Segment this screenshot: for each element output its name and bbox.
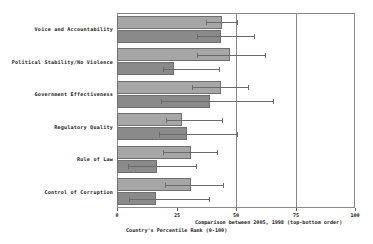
error-bar-5-2005 [165,185,223,186]
x-tick-label-50: 50 [233,212,239,218]
category-label-3: Regulatory Quality [54,124,113,130]
error-bar-1-2005 [197,55,265,56]
error-cap-3-1998-low [159,132,160,137]
category-label-5: Control of Corruption [44,189,113,195]
gridline-50 [236,13,237,208]
error-cap-1-1998-high [219,67,220,72]
x-tick-label-25: 25 [174,212,180,218]
x-tick-100 [355,208,356,211]
error-cap-5-2005-low [165,183,166,188]
gridline-75 [296,13,297,208]
error-bar-2-2005 [192,87,248,88]
x-tick-50 [236,208,237,211]
x-tick-25 [177,208,178,211]
error-cap-3-2005-low [166,118,167,123]
x-tick-label-75: 75 [293,212,299,218]
x-tick-label-100: 100 [350,212,359,218]
error-bar-4-2005 [163,152,217,153]
error-bar-4-1998 [128,166,196,167]
error-cap-5-2005-high [223,183,224,188]
error-bar-2-1998 [161,101,273,102]
error-cap-5-1998-high [209,197,210,202]
error-bar-0-1998 [197,36,254,37]
error-cap-0-2005-low [206,20,207,25]
x-axis-caption-primary: Comparison between 2005, 1998 (top-botto… [195,219,342,225]
error-cap-1-2005-low [197,53,198,58]
error-cap-4-1998-low [128,164,129,169]
category-label-4: Rule of Law [77,156,113,162]
error-cap-1-1998-low [163,67,164,72]
error-cap-1-2005-high [265,53,266,58]
category-label-2: Government Effectiveness [35,91,113,97]
x-tick-0 [117,208,118,211]
x-axis-caption-secondary: Country's Percentile Rank (0-100) [126,227,227,233]
error-cap-2-2005-high [248,85,249,90]
error-bar-3-2005 [166,120,222,121]
error-bar-3-1998 [159,134,238,135]
error-bar-5-1998 [129,199,209,200]
error-cap-2-2005-low [192,85,193,90]
error-bar-1-1998 [163,69,219,70]
error-cap-0-1998-high [254,34,255,39]
error-cap-4-2005-low [163,150,164,155]
x-tick-75 [296,208,297,211]
error-bar-0-2005 [206,22,237,23]
error-cap-5-1998-low [129,197,130,202]
error-cap-0-1998-low [197,34,198,39]
x-tick-label-0: 0 [115,212,118,218]
error-cap-0-2005-high [237,20,238,25]
error-cap-2-1998-low [161,99,162,104]
category-label-1: Political Stability/No Violence [12,59,113,65]
error-cap-4-1998-high [196,164,197,169]
error-cap-3-2005-high [222,118,223,123]
category-label-0: Voice and Accountability [35,26,113,32]
error-cap-3-1998-high [237,132,238,137]
error-cap-4-2005-high [217,150,218,155]
chart-root: Voice and AccountabilityPolitical Stabil… [0,0,373,244]
error-cap-2-1998-high [273,99,274,104]
